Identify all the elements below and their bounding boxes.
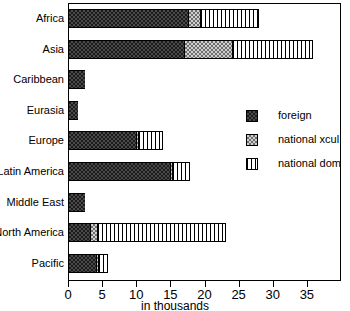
bar-segment-national-dom xyxy=(232,40,313,59)
category-label: Eurasia xyxy=(0,105,64,116)
category-label: North America xyxy=(0,227,64,238)
bar-segment-national-xcul xyxy=(90,223,97,242)
bar-segment-foreign xyxy=(68,193,85,212)
bar-segment-national-dom xyxy=(138,131,163,150)
category-label: Asia xyxy=(0,44,64,55)
bar-segment-national-xcul xyxy=(184,40,232,59)
bar-segment-national-dom xyxy=(97,223,227,242)
bar-eurasia xyxy=(68,101,78,120)
bar-segment-national-dom xyxy=(172,162,190,181)
x-axis-title: in thousands xyxy=(0,300,350,311)
legend-swatch-national-xcul xyxy=(246,134,258,146)
bar-north-america xyxy=(68,223,226,242)
category-label: Middle East xyxy=(0,197,64,208)
bar-segment-national-xcul xyxy=(188,9,200,28)
bar-latin-america xyxy=(68,162,190,181)
bar-asia xyxy=(68,40,313,59)
category-label: Caribbean xyxy=(0,74,64,85)
bar-africa xyxy=(68,9,259,28)
bar-segment-foreign xyxy=(68,9,188,28)
bar-segment-national-dom xyxy=(200,9,259,28)
category-label: Latin America xyxy=(0,166,64,177)
legend-swatch-national-dom xyxy=(246,158,258,170)
bar-pacific xyxy=(68,254,108,273)
bar-chart: AfricaAsiaCaribbeanEurasiaEuropeLatin Am… xyxy=(0,0,350,311)
legend-label-national-xcul: national xcul xyxy=(278,133,339,146)
bar-segment-foreign xyxy=(68,101,78,120)
bar-segment-foreign xyxy=(68,223,90,242)
bar-middle-east xyxy=(68,193,85,212)
bar-segment-foreign xyxy=(68,162,170,181)
legend-label-foreign: foreign xyxy=(278,109,312,122)
category-label: Africa xyxy=(0,13,64,24)
bar-segment-foreign xyxy=(68,131,136,150)
bar-segment-foreign xyxy=(68,254,96,273)
bar-segment-foreign xyxy=(68,40,184,59)
bar-segment-national-dom xyxy=(98,254,108,273)
bar-segment-foreign xyxy=(68,70,85,89)
bar-caribbean xyxy=(68,70,85,89)
legend-swatch-foreign xyxy=(246,110,258,122)
legend-label-national-dom: national dom xyxy=(278,157,341,170)
category-label: Pacific xyxy=(0,258,64,269)
category-label: Europe xyxy=(0,135,64,146)
bar-europe xyxy=(68,131,163,150)
